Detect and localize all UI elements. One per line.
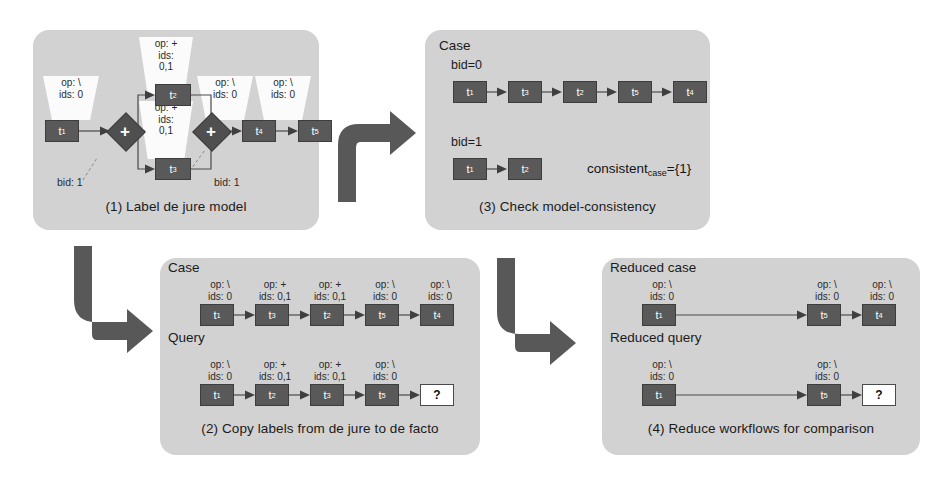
connector-arrow-1-to-2 — [74, 246, 153, 353]
diagram-canvas: op: \ ids: 0 op: + ids: 0,1 op: + ids: 0… — [0, 0, 942, 480]
connector-arrow-1-to-3 — [338, 111, 416, 202]
panel-connectors — [0, 0, 942, 480]
connector-arrow-2-to-4 — [497, 258, 576, 365]
